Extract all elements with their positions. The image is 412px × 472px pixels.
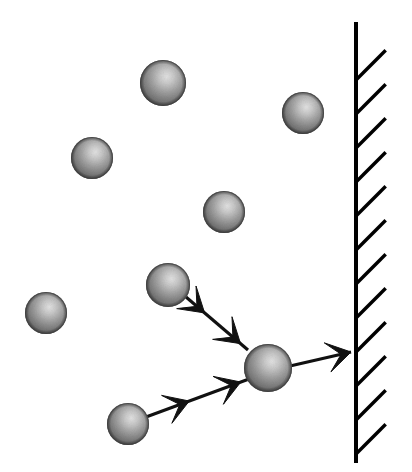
molecule-3 bbox=[71, 137, 113, 179]
figure-background bbox=[0, 0, 412, 472]
physics-figure bbox=[0, 0, 412, 472]
molecule-8 bbox=[107, 403, 149, 445]
molecule-7 bbox=[244, 344, 292, 392]
figure-canvas bbox=[0, 0, 412, 472]
molecule-5 bbox=[146, 263, 190, 307]
molecule-1 bbox=[140, 60, 186, 106]
molecule-4 bbox=[203, 191, 245, 233]
molecule-6 bbox=[25, 292, 67, 334]
molecule-2 bbox=[282, 92, 324, 134]
